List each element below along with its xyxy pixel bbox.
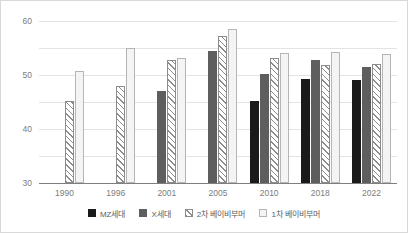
y-axis-tick-label: 50 xyxy=(23,70,32,80)
bar-group xyxy=(90,21,141,183)
bar xyxy=(218,36,227,183)
bar xyxy=(280,53,289,183)
bar xyxy=(116,86,125,183)
bar-group xyxy=(39,21,90,183)
bar xyxy=(177,58,186,183)
legend-label: MZ세대 xyxy=(100,208,126,219)
x-axis-tick-label: 2005 xyxy=(192,185,243,201)
chart-legend: MZ세대X세대2차 베이비부머1차 베이비부머 xyxy=(1,206,407,220)
legend-swatch-icon xyxy=(139,209,147,217)
x-axis-tick-label: 1990 xyxy=(39,185,90,201)
bar xyxy=(352,80,361,183)
legend-item[interactable]: 1차 베이비부머 xyxy=(259,208,320,219)
bar xyxy=(167,60,176,183)
legend-swatch-icon xyxy=(88,209,96,217)
bar xyxy=(260,74,269,183)
bar-group xyxy=(141,21,192,183)
bar-groups xyxy=(39,21,397,183)
bar xyxy=(362,67,371,183)
bar xyxy=(301,79,310,183)
x-axis: 1990199620012005201020182022 xyxy=(39,185,397,201)
plot-area: 0102030405060 xyxy=(39,21,397,183)
x-axis-tick-label: 2001 xyxy=(141,185,192,201)
bar xyxy=(157,91,166,183)
bar xyxy=(126,48,135,183)
y-axis-tick-label: 20 xyxy=(23,232,32,233)
bar-group xyxy=(295,21,346,183)
legend-label: 2차 베이비부머 xyxy=(197,208,246,219)
bar xyxy=(331,52,340,183)
legend-item[interactable]: X세대 xyxy=(139,208,170,219)
bar xyxy=(270,58,279,183)
legend-item[interactable]: 2차 베이비부머 xyxy=(185,208,246,219)
x-axis-tick-label: 1996 xyxy=(90,185,141,201)
y-axis-tick-label: 30 xyxy=(23,178,32,188)
bar xyxy=(311,60,320,183)
bar-group xyxy=(192,21,243,183)
legend-label: X세대 xyxy=(151,208,170,219)
bar xyxy=(250,101,259,183)
bar xyxy=(321,65,330,183)
legend-item[interactable]: MZ세대 xyxy=(88,208,126,219)
y-axis-tick-label: 60 xyxy=(23,16,32,26)
bar xyxy=(208,51,217,183)
bar-group xyxy=(346,21,397,183)
legend-swatch-icon xyxy=(185,209,193,217)
x-axis-tick-label: 2022 xyxy=(346,185,397,201)
bar xyxy=(382,54,391,183)
y-axis-tick-label: 40 xyxy=(23,124,32,134)
gridline: 0 xyxy=(39,183,397,184)
bar xyxy=(228,29,237,183)
legend-swatch-icon xyxy=(259,209,267,217)
x-axis-tick-label: 2018 xyxy=(295,185,346,201)
chart-figure: 0102030405060 19901996200120052010201820… xyxy=(0,0,408,233)
legend-label: 1차 베이비부머 xyxy=(271,208,320,219)
x-axis-tick-label: 2010 xyxy=(244,185,295,201)
bar-group xyxy=(244,21,295,183)
bar xyxy=(65,101,74,183)
bar xyxy=(372,64,381,183)
bar xyxy=(75,71,84,183)
